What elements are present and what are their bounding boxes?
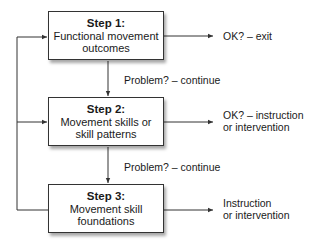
- step-2-outcome-line2: or intervention: [223, 121, 304, 133]
- step-1-outcome: OK? – exit: [223, 30, 272, 42]
- step-2-line2: skill patterns: [75, 128, 136, 140]
- step-1-line2: outcomes: [82, 42, 130, 54]
- continue-label-1: Problem? – continue: [124, 74, 220, 86]
- step-2-outcome: OK? – instruction or intervention: [223, 109, 304, 133]
- feedback-loop-to-step1: [17, 37, 48, 210]
- step-2-box: Step 2: Movement skills or skill pattern…: [48, 97, 164, 146]
- continue-label-2: Problem? – continue: [124, 161, 220, 173]
- step-2-outcome-line1: OK? – instruction: [223, 109, 304, 121]
- step-3-line2: foundations: [78, 215, 135, 227]
- step-1-line1: Functional movement: [53, 30, 158, 42]
- step-3-title: Step 3:: [87, 190, 125, 203]
- step-3-outcome-line1: Instruction: [223, 197, 290, 209]
- step-1-box: Step 1: Functional movement outcomes: [48, 11, 164, 60]
- step-2-title: Step 2:: [87, 103, 125, 116]
- step-2-line1: Movement skills or: [60, 116, 151, 128]
- step-1-outcome-line1: OK? – exit: [223, 30, 272, 42]
- step-1-title: Step 1:: [87, 17, 125, 30]
- step-3-outcome: Instruction or intervention: [223, 197, 290, 221]
- step-3-outcome-line2: or intervention: [223, 209, 290, 221]
- step-3-box: Step 3: Movement skill foundations: [48, 184, 164, 233]
- step-3-line1: Movement skill: [70, 203, 143, 215]
